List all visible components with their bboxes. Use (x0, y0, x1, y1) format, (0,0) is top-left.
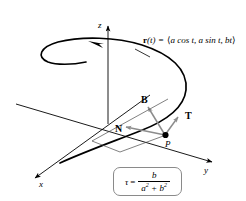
y-axis (16, 104, 212, 162)
point-p-label: P (165, 140, 171, 149)
torsion-formula-box: τ = b a2 + b2 (113, 167, 182, 196)
z-axis-label: z (98, 21, 102, 30)
torsion-formula: τ = b a2 + b2 (114, 168, 181, 195)
fraction-denominator: a2 + b2 (138, 182, 170, 193)
tangent-vector-label: T (185, 111, 192, 121)
equation-comma-2: , (221, 35, 223, 45)
helix-frenet-frame-figure: z x y r(t)=⟨a cos t, a sin t, bt⟩ B N T … (0, 0, 246, 201)
equation-argument: (t) (147, 35, 156, 45)
equation-comma-1: , (194, 35, 196, 45)
equation-equals-sign: = (156, 35, 167, 45)
binormal-vector-label: B (141, 95, 148, 105)
plane-guide-lines (92, 99, 168, 152)
denominator-b-exponent: 2 (164, 182, 167, 188)
formula-equals-sign: = (130, 177, 138, 187)
equation-leader-line (135, 49, 150, 57)
equation-close-bracket: ⟩ (232, 35, 236, 45)
y-axis-label: y (204, 166, 208, 175)
denominator-plus: + (151, 183, 157, 193)
fraction-numerator: b (138, 170, 170, 180)
equation-component-2: a sin t (199, 35, 221, 45)
point-p-marker (162, 132, 168, 138)
equation-component-1: a cos t (171, 35, 195, 45)
normal-vector-label: N (115, 124, 122, 134)
denominator-a-exponent: 2 (146, 182, 149, 188)
torsion-fraction: b a2 + b2 (138, 170, 170, 193)
x-axis-label: x (39, 180, 43, 189)
curve-direction-arrow (88, 41, 104, 48)
x-axis (35, 95, 150, 178)
parametrization-equation: r(t)=⟨a cos t, a sin t, bt⟩ (143, 36, 236, 45)
